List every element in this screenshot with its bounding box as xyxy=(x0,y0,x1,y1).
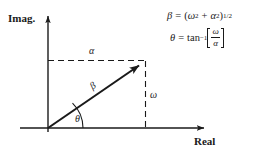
angle-eq-function: tan xyxy=(187,32,200,43)
angle-eq-bracket-group: ω α xyxy=(207,27,223,48)
bracket-right-icon xyxy=(221,28,224,48)
diagram-canvas xyxy=(0,0,267,154)
angle-eq-equals: = xyxy=(178,32,184,43)
omega-label: ω xyxy=(150,90,157,100)
angle-eq-fraction: ω α xyxy=(210,27,220,48)
real-axis-label: Real xyxy=(194,136,215,147)
complex-plane-phasor-diagram: Imag. Real α β ω θ β = ( ω 2 + α 2 ) 1/2… xyxy=(0,0,267,154)
angle-eq-numerator: ω xyxy=(211,27,219,37)
angle-eq-denominator: α xyxy=(212,38,219,48)
magnitude-eq-plus: + xyxy=(202,10,208,21)
magnitude-equation: β = ( ω 2 + α 2 ) 1/2 xyxy=(167,10,232,21)
alpha-label: α xyxy=(89,46,94,56)
magnitude-eq-equals: = xyxy=(175,10,181,21)
magnitude-eq-omega: ω xyxy=(188,10,195,21)
theta-label: θ xyxy=(75,114,80,124)
angle-eq-lhs: θ xyxy=(170,32,175,43)
magnitude-eq-lhs: β xyxy=(167,10,172,21)
phasor-vector-beta xyxy=(48,66,139,129)
angle-equation: θ = tan −1 ω α xyxy=(170,27,224,48)
imaginary-axis-label: Imag. xyxy=(8,13,35,24)
